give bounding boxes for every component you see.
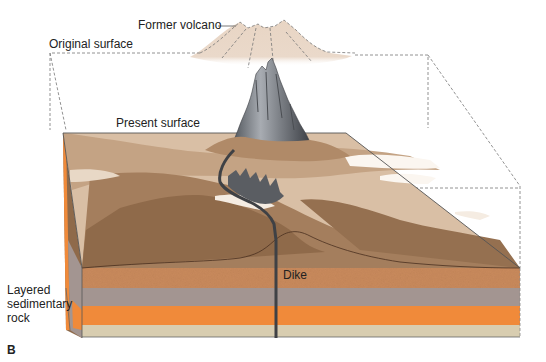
volcanic-neck bbox=[205, 58, 350, 161]
label-layered-line1: Layered bbox=[7, 283, 72, 297]
label-layered-line3: rock bbox=[7, 311, 72, 325]
label-former-volcano: Former volcano bbox=[138, 18, 221, 32]
label-original-surface: Original surface bbox=[49, 37, 133, 51]
label-layered-line2: sedimentary bbox=[7, 297, 72, 311]
panel-label: B bbox=[7, 343, 16, 357]
label-layered-sedimentary-rock: Layered sedimentary rock bbox=[7, 283, 72, 325]
block-diagram bbox=[0, 0, 546, 362]
label-present-surface: Present surface bbox=[116, 116, 200, 130]
label-dike: Dike bbox=[283, 268, 307, 282]
